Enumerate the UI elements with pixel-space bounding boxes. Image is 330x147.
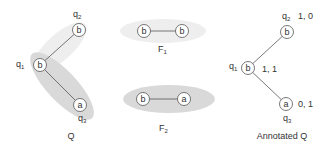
f1-node-2: b — [176, 25, 189, 38]
node-label: b — [245, 63, 250, 73]
node-label: b — [76, 25, 81, 35]
f2-node-1: b — [137, 93, 150, 106]
node-q3: a — [74, 99, 87, 112]
node-q2: b — [73, 24, 86, 37]
caption-f2: F2 — [159, 123, 169, 134]
node-label: a — [77, 100, 82, 110]
node-label: a — [181, 94, 186, 104]
node-label: a — [283, 99, 288, 109]
annotation-q2: 1, 0 — [298, 11, 313, 21]
node-name-q2: q2 — [73, 9, 82, 20]
caption-f1: F1 — [158, 44, 168, 55]
panel-q: b b a q2 q1 q3 Q — [16, 9, 103, 141]
panel-annotated-q: b b a q2 1, 0 q1 1, 1 0, 1 q3 Annotated … — [229, 11, 313, 141]
annotation-q3: 0, 1 — [298, 99, 313, 109]
node-label: b — [284, 27, 289, 37]
f2-node-2: a — [178, 93, 191, 106]
f1-node-1: b — [138, 25, 151, 38]
annotated-name-q1: q1 — [229, 61, 238, 72]
annotated-node-q1: b — [242, 62, 255, 75]
node-label: b — [141, 26, 146, 36]
annotated-node-q2: b — [281, 26, 294, 39]
panel-f2: b a F2 — [123, 85, 215, 134]
panel-f1: b b F1 — [120, 19, 206, 55]
annotated-name-q3: q3 — [283, 113, 292, 124]
annotated-name-q2: q2 — [282, 11, 291, 22]
caption-q: Q — [67, 131, 74, 141]
node-label: b — [37, 60, 42, 70]
node-q1: b — [34, 59, 47, 72]
caption-annotated-q: Annotated Q — [257, 131, 308, 141]
node-label: b — [140, 94, 145, 104]
annotation-q1: 1, 1 — [262, 64, 277, 74]
diagram-canvas: b b a q2 q1 q3 Q b b F1 — [0, 0, 330, 147]
edge-aq1-aq2 — [248, 32, 287, 68]
node-name-q1: q1 — [16, 59, 25, 70]
annotated-node-q3: a — [280, 98, 293, 111]
node-label: b — [179, 26, 184, 36]
